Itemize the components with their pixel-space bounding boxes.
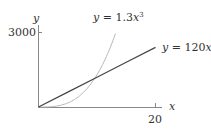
y-axis-label: y [32,12,40,25]
x-axis-label: x [169,100,176,113]
x-tick-label: 20 [148,113,162,126]
chart: y 3000 x 20 y = 1.3x3 y = 120x [0,0,211,129]
cubic-label: y = 1.3x3 [92,11,144,24]
cubic-curve [39,34,116,107]
linear-curve [39,47,156,107]
y-tick-label: 3000 [8,26,36,39]
linear-label: y = 120x [161,41,211,54]
